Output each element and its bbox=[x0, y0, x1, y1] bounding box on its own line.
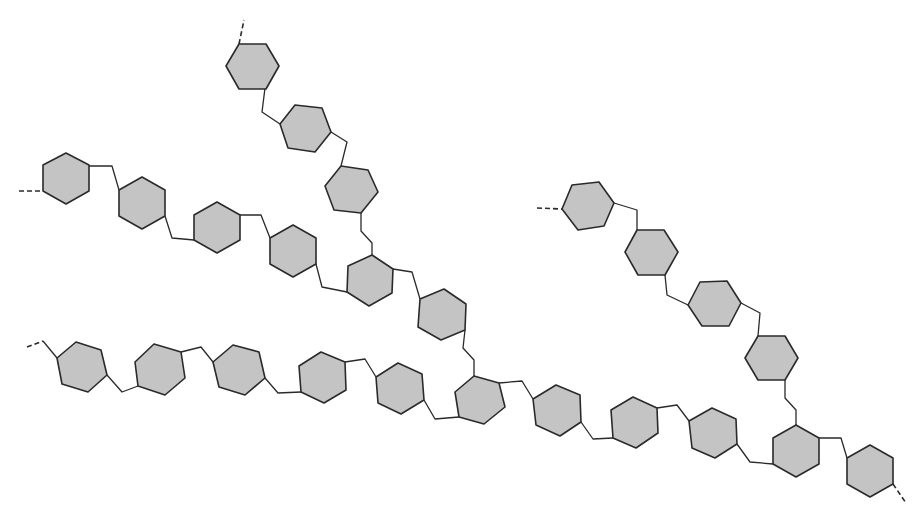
link-r4-jr bbox=[785, 380, 796, 425]
hexagon-unit-main-2 bbox=[135, 344, 185, 395]
link-m6-m7 bbox=[581, 422, 613, 439]
link-m0-m1 bbox=[43, 341, 57, 358]
link-u3-j bbox=[361, 213, 372, 255]
cont-upper-dashed-line bbox=[239, 20, 244, 44]
branched-chain-diagram: Branched chain of hexagonal sugar units bbox=[0, 0, 917, 518]
hexagon-unit-left-4 bbox=[270, 225, 316, 277]
chain-continuations bbox=[19, 20, 906, 503]
hexagon-unit-main-3 bbox=[213, 345, 265, 395]
link-m7-m8 bbox=[657, 405, 689, 421]
hexagon-unit-left-2 bbox=[119, 177, 165, 229]
hexagon-unit-main-6 bbox=[533, 385, 581, 436]
sugar-units bbox=[43, 44, 893, 497]
link-mid-jm bbox=[463, 330, 474, 376]
link-l2-l3 bbox=[165, 216, 194, 240]
link-u1-u2 bbox=[262, 88, 280, 124]
hexagon-unit-upper-2 bbox=[280, 105, 331, 152]
link-l4-j bbox=[316, 264, 347, 292]
link-r3-r4 bbox=[741, 303, 760, 336]
hexagon-unit-junction-upper bbox=[347, 255, 393, 306]
link-m4-m5 bbox=[345, 359, 376, 377]
hexagon-unit-main-9 bbox=[847, 445, 893, 497]
link-m5-jm bbox=[424, 400, 459, 419]
link-l1-l2 bbox=[89, 166, 119, 190]
hexagon-unit-right-2 bbox=[625, 230, 678, 275]
link-jm-m6 bbox=[499, 381, 533, 399]
hexagon-unit-main-7 bbox=[611, 397, 658, 448]
hexagon-unit-main-5 bbox=[376, 363, 424, 414]
link-m8-jr bbox=[737, 444, 773, 464]
link-jr-m9 bbox=[819, 438, 847, 458]
cont-right-dashed-line bbox=[537, 208, 562, 209]
link-r1-r2 bbox=[614, 203, 637, 230]
link-m2-m3 bbox=[181, 347, 213, 362]
link-u2-u3 bbox=[331, 132, 347, 166]
hexagon-unit-main-1 bbox=[57, 342, 107, 392]
hexagon-unit-left-1 bbox=[43, 153, 89, 204]
hexagon-unit-upper-3 bbox=[325, 166, 378, 213]
cont-main-start-dashed-line bbox=[27, 341, 43, 347]
glycosidic-links bbox=[43, 88, 847, 464]
hexagon-unit-right-1 bbox=[562, 182, 614, 230]
hexagon-unit-left-3 bbox=[194, 202, 240, 253]
hexagon-unit-mid-1 bbox=[418, 289, 466, 340]
link-m1-m2 bbox=[107, 375, 138, 392]
hexagon-unit-upper-1 bbox=[226, 44, 279, 89]
hexagon-unit-main-8 bbox=[689, 408, 737, 458]
hexagon-unit-right-4 bbox=[745, 336, 798, 380]
link-r2-r3 bbox=[665, 275, 688, 305]
hexagon-unit-junction-right bbox=[773, 425, 819, 477]
hexagon-unit-right-3 bbox=[688, 281, 741, 326]
hexagon-unit-main-4 bbox=[299, 352, 346, 403]
link-l3-l4 bbox=[240, 215, 270, 238]
hexagon-unit-junction-main bbox=[455, 376, 505, 424]
link-j-mid bbox=[393, 269, 420, 299]
cont-main-end-dashed-line bbox=[893, 484, 906, 503]
link-m3-m4 bbox=[265, 378, 301, 393]
